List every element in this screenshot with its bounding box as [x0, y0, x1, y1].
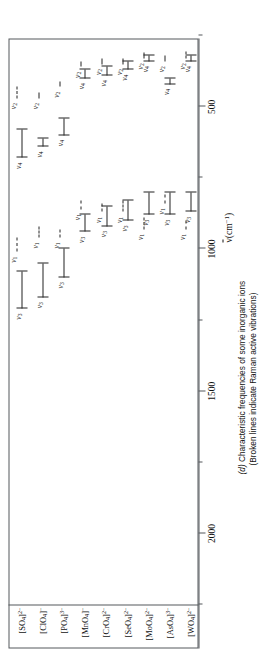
band-nu1-raman [16, 237, 17, 251]
band-nu4-ir [21, 129, 22, 157]
band-end-cap [37, 296, 48, 297]
band-end-cap [185, 191, 196, 192]
ion-label-po43-: [PO4]3− [50, 604, 71, 648]
figure-rotated-canvas: [SO4]2−[ClO4]−[PO4]3−[MnO4]−[CrO4]2−[SeO… [0, 0, 261, 672]
band-nu3-ir [42, 263, 43, 297]
band-nu1-raman [38, 226, 39, 237]
band-end-cap [79, 68, 90, 69]
band-end-cap [58, 117, 69, 118]
band-label-nu3: ν3 [119, 225, 128, 231]
band-label-nu1: ν1 [114, 216, 123, 222]
band-label-nu1: ν1 [177, 233, 186, 239]
band-nu1-raman [59, 229, 60, 238]
band-end-cap [58, 276, 69, 277]
ion-label-moo42-: [MoO4]2− [135, 604, 156, 648]
band-end-cap [185, 60, 196, 61]
nu-tilde-symbol: ν [223, 238, 233, 242]
band-label-nu1: ν1 [156, 208, 165, 214]
x-tick-major [198, 532, 205, 533]
band-label-nu2: ν2 [72, 71, 81, 77]
band-nu2-raman [59, 81, 60, 87]
band-end-cap [58, 134, 69, 135]
band-nu3-ir [169, 192, 170, 215]
plot-frame [8, 38, 198, 648]
caption-line-1: (d) Characteristic frequencies of some i… [236, 280, 246, 474]
band-label-nu1: ν1 [93, 216, 102, 222]
band-nu3-ir [21, 271, 22, 308]
band-label-nu4: ν4 [13, 162, 22, 168]
x-tick-minor [198, 176, 202, 177]
x-tick-major [198, 247, 205, 248]
band-label-nu4: ν4 [55, 140, 64, 146]
x-tick-label: 1000 [206, 239, 216, 258]
figure-caption: (d) Characteristic frequencies of some i… [236, 4, 257, 474]
band-label-nu2: ν2 [51, 91, 60, 97]
band-nu2-raman [185, 51, 186, 58]
band-end-cap [164, 191, 175, 192]
band-end-cap [101, 65, 112, 66]
band-end-cap [164, 83, 175, 84]
band-label-nu1: ν1 [30, 242, 39, 248]
band-nu3-ir [63, 248, 64, 276]
band-label-nu1: ν1 [8, 256, 17, 262]
band-label-nu1: ν1 [51, 242, 60, 248]
band-end-cap [164, 77, 175, 78]
band-label-nu4: ν4 [98, 80, 107, 86]
band-nu1-raman [80, 200, 81, 209]
band-nu2-raman [38, 92, 39, 98]
axis-unit-exponent: −1 [222, 215, 230, 222]
band-end-cap [37, 145, 48, 146]
band-nu1-raman [164, 194, 165, 203]
band-nu2-raman [101, 58, 102, 64]
band-nu3-ir [84, 214, 85, 231]
band-label-nu2: ν2 [177, 63, 186, 69]
band-label-nu3: ν3 [161, 219, 170, 225]
band-end-cap [143, 191, 154, 192]
band-label-nu2: ν2 [8, 103, 17, 109]
band-nu2-raman [164, 55, 165, 61]
band-end-cap [16, 270, 27, 271]
band-end-cap [16, 156, 27, 157]
band-label-nu1: ν1 [135, 233, 144, 239]
band-nu2-raman [80, 61, 81, 67]
band-label-nu1: ν1 [72, 213, 81, 219]
ion-label-aso43-: [AsO4]3− [156, 604, 177, 648]
caption-line-2: (Broken lines indicate Raman active vibr… [247, 4, 258, 474]
band-nu2-raman [143, 52, 144, 58]
x-tick-minor [198, 603, 202, 604]
band-label-nu2: ν2 [30, 103, 39, 109]
band-nu3-ir [106, 206, 107, 226]
band-end-cap [37, 262, 48, 263]
ion-label-cro42-: [CrO4]2− [92, 604, 113, 648]
band-end-cap [143, 60, 154, 61]
ion-label-mno4-: [MnO4]− [71, 604, 92, 648]
band-label-nu4: ν4 [34, 151, 43, 157]
ion-label-column: [SO4]2−[ClO4]−[PO4]3−[MnO4]−[CrO4]2−[SeO… [8, 604, 198, 648]
band-nu1-raman [185, 220, 186, 229]
x-axis-title: ν(cm−1) [222, 212, 233, 242]
band-label-nu3: ν3 [34, 302, 43, 308]
ion-label-clo4-: [ClO4]− [29, 604, 50, 648]
band-end-cap [37, 137, 48, 138]
x-tick-label: 1500 [206, 381, 216, 400]
band-nu1-raman [122, 200, 123, 211]
band-label-nu2: ν2 [135, 63, 144, 69]
x-axis-line [198, 38, 199, 648]
band-label-nu2: ν2 [93, 68, 102, 74]
band-end-cap [143, 213, 154, 214]
axis-unit-close: ) [223, 212, 233, 215]
band-nu1-raman [101, 203, 102, 212]
band-label-nu3: ν3 [76, 236, 85, 242]
x-tick-minor [198, 319, 202, 320]
band-nu2-raman [16, 86, 17, 97]
band-label-nu3: ν3 [13, 313, 22, 319]
band-end-cap [16, 307, 27, 308]
x-tick-major [198, 105, 205, 106]
x-tick-major [198, 390, 205, 391]
band-end-cap [16, 128, 27, 129]
x-tick-minor [198, 34, 202, 35]
x-tick-label: 500 [206, 99, 216, 113]
ion-label-seo42-: [SeO4]2− [114, 604, 135, 648]
x-tick-label: 2000 [206, 523, 216, 542]
figure-page: [SO4]2−[ClO4]−[PO4]3−[MnO4]−[CrO4]2−[SeO… [0, 0, 261, 672]
